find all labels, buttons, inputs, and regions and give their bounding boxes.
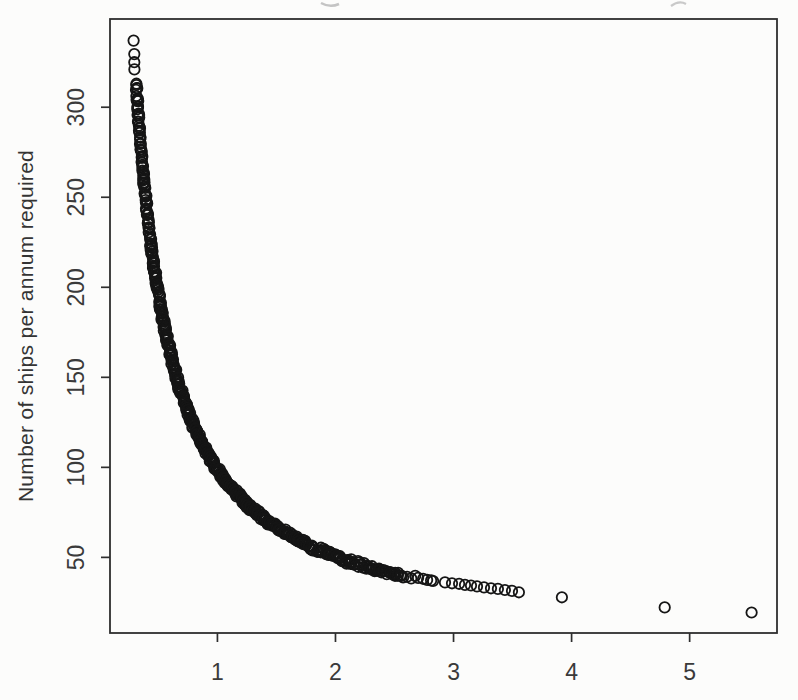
y-axis-label: Number of ships per annum required <box>14 150 37 502</box>
axis-layer: 1234550100150200250300 <box>63 88 696 685</box>
cropped-text-fragment <box>321 3 339 6</box>
scanned-figure-page: 1234550100150200250300 Number of ships p… <box>0 0 798 700</box>
scatter-plot-canvas: 1234550100150200250300 Number of ships p… <box>0 0 798 700</box>
data-point <box>514 587 524 597</box>
x-tick-label: 2 <box>329 659 342 685</box>
data-point-top <box>128 35 138 45</box>
plot-border <box>110 19 777 633</box>
data-point-top <box>129 64 139 74</box>
x-tick-label: 5 <box>683 659 696 685</box>
y-tick-label: 150 <box>63 358 89 396</box>
x-tick-label: 1 <box>211 659 224 685</box>
data-points-layer <box>128 35 756 617</box>
y-tick-label: 200 <box>63 268 89 306</box>
y-tick-label: 300 <box>63 88 89 126</box>
x-tick-label: 4 <box>565 659 578 685</box>
y-tick-label: 50 <box>63 545 89 571</box>
data-point-outlier <box>660 602 670 612</box>
y-tick-label: 250 <box>63 178 89 216</box>
x-tick-label: 3 <box>447 659 460 685</box>
data-point-outlier <box>557 592 567 602</box>
data-point-outlier <box>746 607 756 617</box>
y-tick-label: 100 <box>63 448 89 486</box>
cropped-text-fragment <box>671 2 686 6</box>
